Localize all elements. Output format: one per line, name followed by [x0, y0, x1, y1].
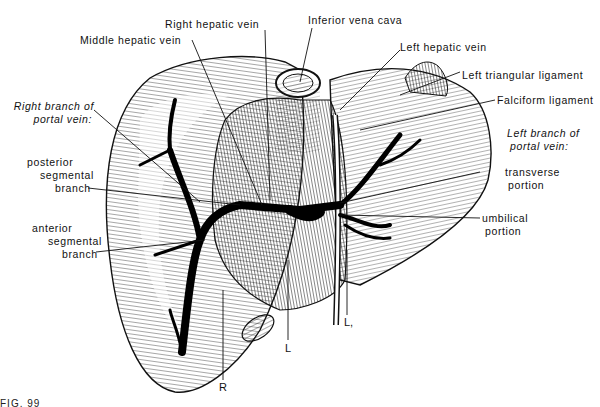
left-lobe [330, 69, 491, 285]
label-anterior-segmental-3: branch [62, 248, 98, 260]
label-umbilical-portion-2: portion [485, 225, 521, 237]
label-posterior-segmental-1: posterior [27, 156, 73, 168]
figure-caption: FIG. 99 [0, 398, 40, 407]
label-right-hepatic-vein: Right hepatic vein [165, 18, 259, 30]
label-transverse-portion-2: portion [508, 179, 544, 191]
label-posterior-segmental-3: branch [55, 182, 91, 194]
letter-L: L [285, 342, 291, 354]
label-anterior-segmental-2: segmental [48, 235, 102, 247]
label-right-branch-portal-vein-2: portal vein: [6, 113, 92, 125]
letter-L1: L, [344, 316, 353, 328]
label-inferior-vena-cava: Inferior vena cava [308, 14, 402, 26]
label-posterior-segmental-2: segmental [40, 169, 94, 181]
liver-illustration [0, 0, 600, 407]
label-left-branch-portal-vein-2: portal vein: [510, 140, 569, 152]
label-umbilical-portion-1: umbilical [482, 212, 528, 224]
label-left-branch-portal-vein-1: Left branch of [507, 127, 580, 139]
label-left-triangular-ligament: Left triangular ligament [462, 69, 583, 81]
label-left-hepatic-vein: Left hepatic vein [400, 41, 487, 53]
label-middle-hepatic-vein: Middle hepatic vein [80, 34, 181, 46]
label-right-branch-portal-vein-1: Right branch of [6, 100, 94, 112]
label-transverse-portion-1: transverse [505, 166, 560, 178]
label-anterior-segmental-1: anterior [32, 222, 72, 234]
letter-R: R [219, 381, 227, 393]
label-falciform-ligament: Falciform ligament [497, 94, 594, 106]
